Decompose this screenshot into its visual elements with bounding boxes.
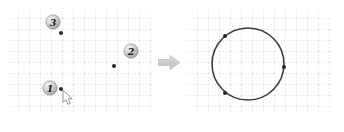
circle-through-3-points-figure: 3 2 1 [0,0,344,132]
circle-point-top-left [223,34,227,38]
right-arrow-shape [158,56,180,70]
step-badge-1-label: 1 [47,83,54,94]
circle-point-bottom-left [223,91,227,95]
grid-edge-fade [187,8,332,116]
grid-edge-fade [8,8,154,116]
step-badge-3-label: 3 [50,17,57,28]
transition-arrow-icon [158,54,182,72]
after-panel [187,8,332,116]
step-badge-2-label: 2 [127,46,135,57]
before-panel: 3 2 1 [8,8,154,116]
point-dot-1 [59,87,63,91]
point-dot-3 [59,31,63,35]
circle-point-right [282,65,286,69]
point-dot-2 [112,64,116,68]
